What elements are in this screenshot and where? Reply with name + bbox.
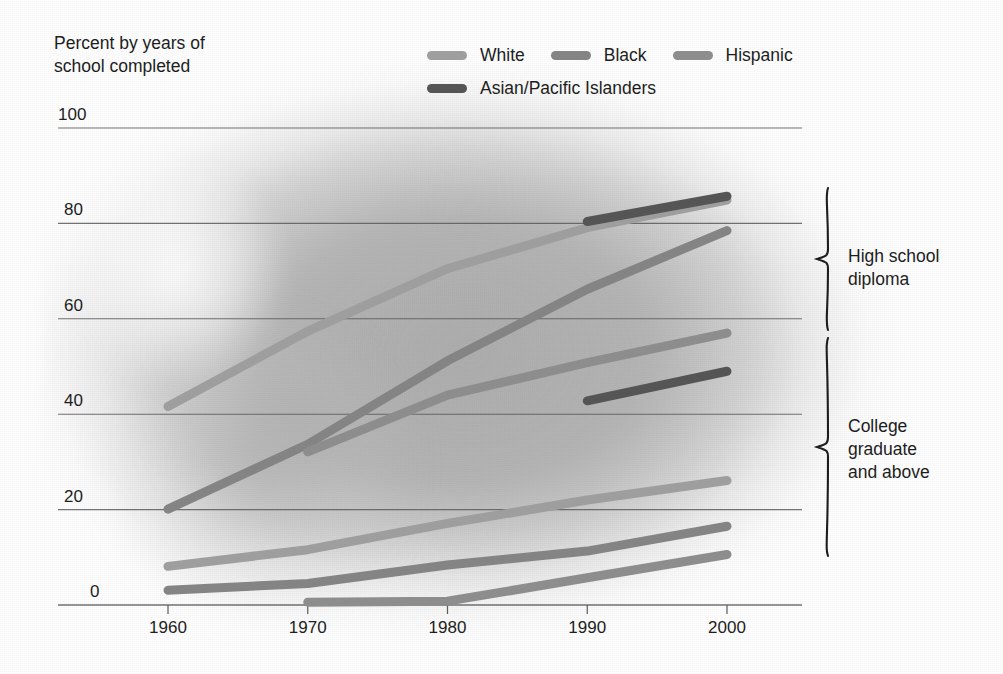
series-line-white-high-school-diploma[interactable] [168, 200, 727, 407]
y-tick-label-20: 20 [64, 487, 83, 507]
x-tick-label-1990: 1990 [568, 618, 606, 638]
annotation-high-school-diploma: High school diploma [848, 245, 939, 291]
chart-canvas: Percent by years of school completed Whi… [0, 0, 1003, 674]
y-tick-label-40: 40 [64, 391, 83, 411]
y-tick-label-0: 0 [90, 582, 99, 602]
brace-high-school-diploma [817, 188, 828, 330]
series-line-white-college-graduate-and-above[interactable] [168, 481, 727, 567]
y-tick-label-100: 100 [58, 105, 86, 125]
x-tick-label-1980: 1980 [429, 618, 467, 638]
x-tick-label-2000: 2000 [708, 618, 746, 638]
plot-area [0, 0, 1003, 674]
annotation-college-graduate: College graduate and above [848, 415, 930, 483]
series-line-hispanic-high-school-diploma[interactable] [308, 333, 727, 452]
x-tick-label-1960: 1960 [149, 618, 187, 638]
y-tick-label-80: 80 [64, 200, 83, 220]
y-tick-label-60: 60 [64, 296, 83, 316]
x-tick-label-1970: 1970 [289, 618, 327, 638]
series-line-asian-pacific-islanders-college-graduate-and-above[interactable] [587, 371, 727, 401]
brace-college-graduate [817, 338, 828, 556]
